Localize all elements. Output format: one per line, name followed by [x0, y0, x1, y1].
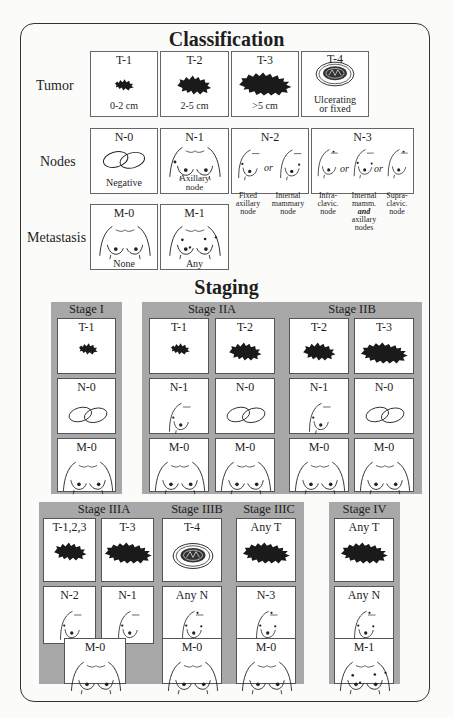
stage-i-n-box: N-0	[57, 378, 116, 434]
stage-iiia-m-box-label: M-0	[65, 640, 125, 655]
row-label-nodes: Nodes	[40, 154, 76, 170]
class-t3-caption: >5 cm	[232, 101, 298, 110]
tumor-ulcerating-icon	[171, 541, 215, 571]
stage-i-t-box: T-1	[57, 318, 116, 374]
stage-iib-n-box: N-0	[354, 378, 414, 434]
stage-iib-t-box-label: T-3	[355, 320, 413, 335]
class-n1-caption-2: node	[161, 183, 228, 192]
stage-iiia-n-box-label: N-2	[44, 588, 95, 603]
row-label-tumor: Tumor	[36, 78, 74, 94]
stage-iia-n-box-label: N-1	[150, 380, 208, 395]
infraclavicular-node-icon	[314, 144, 342, 179]
class-t2-label: T-2	[161, 53, 228, 68]
tumor-medium-icon	[225, 341, 267, 362]
stage-title: Stage IIIC	[231, 502, 307, 517]
fixed-axillary-node-icon	[234, 144, 264, 181]
stage-iiic-m-box-label: M-0	[237, 640, 295, 655]
stage-i-m-box-label: M-0	[58, 440, 115, 455]
tumor-large-icon	[339, 541, 391, 565]
no-metastasis-icon	[238, 654, 296, 695]
stage-iia-t-box: T-2	[215, 318, 275, 374]
negative-nodes-icon	[362, 403, 408, 426]
or-text: or	[264, 162, 273, 173]
stage-iia-m-box-label: M-0	[150, 440, 208, 455]
class-n1-box: N-1 Axillary node	[160, 128, 229, 194]
stage-iiia-t-box-label: T-3	[102, 520, 153, 535]
class-t1-caption: 0-2 cm	[91, 101, 157, 110]
stage-iiic-t-box-label: Any T	[237, 520, 295, 535]
stage-iib-m-box: M-0	[289, 438, 349, 492]
stage-iib-m-box: M-0	[354, 438, 414, 492]
stage-iia-m-box: M-0	[149, 438, 209, 492]
supraclavicular-node-icon	[384, 144, 412, 179]
stage-i-t-box-label: T-1	[58, 320, 115, 335]
no-metastasis-icon	[356, 454, 414, 495]
stage-iiic-m-box: M-0	[236, 638, 296, 684]
stage-iiia-n-box: N-2	[43, 586, 96, 644]
stage-iiic-n-box: N-3	[236, 586, 296, 644]
stage-title: Stage IIB	[282, 302, 422, 317]
class-t1-label: T-1	[91, 53, 157, 68]
class-n3-label: N-3	[312, 130, 413, 145]
tumor-small-icon	[165, 341, 195, 356]
node-icon	[165, 397, 195, 435]
stage-iiib-t-box: T-4	[162, 518, 222, 582]
stage-iv-n-box: Any N	[334, 586, 394, 644]
class-t1-box: T-1 0-2 cm	[90, 51, 158, 117]
n2-sub2-caption: Internalmammarynode	[268, 192, 308, 216]
class-n2-box: N-2 or	[231, 128, 309, 194]
stage-iiib-n-box-label: Any N	[163, 588, 221, 603]
any-metastasis-icon	[336, 654, 394, 695]
stage-iv-m-box-label: M-1	[335, 640, 393, 655]
stage-iia-n-box-label: N-0	[216, 380, 274, 395]
tumor-medium-icon	[173, 74, 217, 96]
class-m0-box: M-0 None	[90, 204, 158, 270]
no-metastasis-icon	[151, 454, 209, 495]
tumor-large-icon	[237, 70, 295, 98]
stage-i-n-box-label: N-0	[58, 380, 115, 395]
stage-iia-t-box-label: T-2	[216, 320, 274, 335]
stage-title: Stage IIIB	[157, 502, 237, 517]
row-label-metastasis: Metastasis	[27, 230, 86, 246]
stage-title: Stage IV	[329, 502, 400, 517]
stage-iiia-t-box-label: T-1,2,3	[44, 520, 95, 535]
stage-iv-t-box: Any T	[334, 518, 394, 582]
stage-title: Stage IIIA	[39, 502, 169, 517]
class-n0-label: N-0	[91, 130, 157, 145]
stage-iiib-n-box: Any N	[162, 586, 222, 644]
stage-iib-t-box: T-2	[289, 318, 349, 374]
stage-i-m-box: M-0	[57, 438, 116, 492]
class-n2-label: N-2	[232, 130, 308, 145]
stage-iiia-t-box: T-3	[101, 518, 154, 582]
stage-iib-n-box: N-1	[289, 378, 349, 434]
stage-iia-t-box-label: T-1	[150, 320, 208, 335]
tumor-medium-icon	[299, 341, 341, 362]
stage-iiia-n-box: N-1	[101, 586, 154, 644]
class-t2-box: T-2 2-5 cm	[160, 51, 229, 117]
stage-iiia-n-box-label: N-1	[102, 588, 153, 603]
stage-iib-t-box-label: T-2	[290, 320, 348, 335]
stage-iiib-t-box-label: T-4	[163, 520, 221, 535]
class-m0-caption: None	[91, 259, 157, 268]
class-t2-caption: 2-5 cm	[161, 101, 228, 110]
negative-nodes-icon	[65, 403, 111, 426]
tumor-large-icon	[103, 541, 155, 565]
class-t3-label: T-3	[232, 53, 298, 68]
stage-iia-m-box: M-0	[215, 438, 275, 492]
stage-iiib-m-box-label: M-0	[163, 640, 221, 655]
class-m1-box: M-1 Any	[160, 204, 229, 270]
staging-title: Staging	[0, 276, 453, 299]
stage-iib-m-box-label: M-0	[290, 440, 348, 455]
no-metastasis-icon	[95, 218, 155, 260]
stage-iiic-t-box: Any T	[236, 518, 296, 582]
no-metastasis-icon	[164, 654, 222, 695]
n3-sub1-caption: Infra-clavic.node	[313, 192, 343, 216]
tumor-small-icon	[73, 341, 103, 356]
tumor-small-icon	[109, 77, 139, 92]
stage-iia-m-box-label: M-0	[216, 440, 274, 455]
stage-iv-t-box-label: Any T	[335, 520, 393, 535]
stage-iv-m-box: M-1	[334, 638, 394, 684]
stage-iv-n-box-label: Any N	[335, 588, 393, 603]
class-n3-box: N-3 or or	[311, 128, 414, 194]
stage-title: Stage I	[51, 302, 122, 317]
